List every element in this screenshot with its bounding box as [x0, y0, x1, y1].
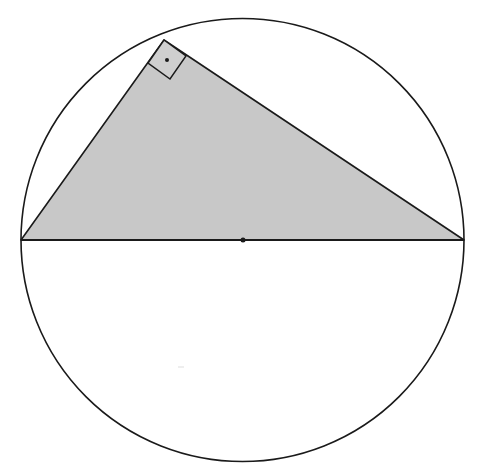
right-angle-dot — [165, 58, 169, 62]
right-triangle — [21, 40, 464, 240]
thales-diagram — [0, 0, 481, 476]
diagram-canvas — [0, 0, 481, 476]
center-dot — [241, 238, 246, 243]
